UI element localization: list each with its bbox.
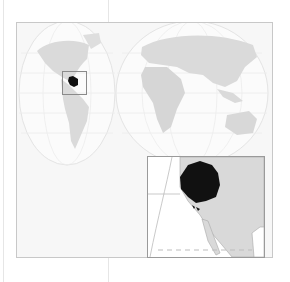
locator-box bbox=[62, 71, 87, 95]
inset-map-svg bbox=[148, 157, 264, 257]
inset-map bbox=[147, 156, 265, 258]
guide-line-left bbox=[3, 0, 4, 282]
